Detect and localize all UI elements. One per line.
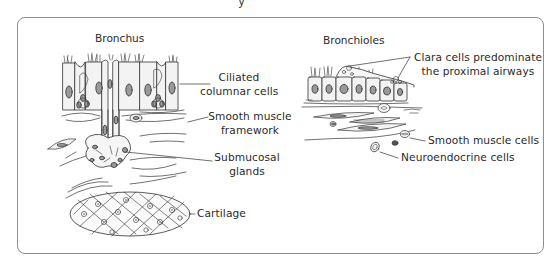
label-line: Clara cells predominate: [410, 51, 546, 65]
bronchus-title: Bronchus: [95, 32, 144, 44]
label-smooth-muscle-framework: Smooth muscle framework: [208, 110, 292, 137]
bronchiole-smooth-muscle: [302, 104, 422, 154]
label-line: columnar cells: [200, 85, 278, 99]
bronchus-epithelium: [63, 53, 178, 142]
label-submucosal-glands: Submucosal glands: [214, 151, 280, 178]
label-cartilage: Cartilage: [197, 207, 246, 221]
label-line: Ciliated: [200, 71, 278, 85]
label-line: Smooth muscle: [208, 110, 292, 124]
label-line: framework: [208, 124, 292, 138]
label-clara-cells: Clara cells predominate the proximal air…: [410, 51, 546, 78]
label-ciliated-columnar-cells: Ciliated columnar cells: [200, 71, 278, 98]
cartilage-plate: [70, 192, 190, 236]
submucosal-gland: [85, 110, 130, 168]
label-neuroendocrine-cells: Neuroendocrine cells: [401, 151, 515, 165]
label-line: glands: [214, 165, 280, 179]
label-line: Submucosal: [214, 151, 280, 165]
bronchioles-title: Bronchioles: [323, 34, 385, 46]
bronchiole-epithelium: [304, 66, 414, 105]
label-smooth-muscle-cells: Smooth muscle cells: [428, 134, 539, 148]
label-line: the proximal airways: [410, 65, 546, 79]
